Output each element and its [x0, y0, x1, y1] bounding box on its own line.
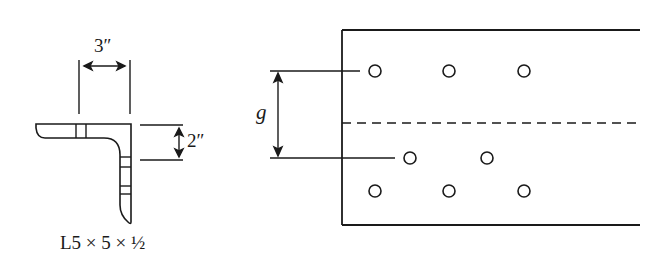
plate-view: [270, 30, 640, 225]
angle-section: [36, 60, 183, 224]
depth-dimension-label: 2″: [187, 130, 204, 152]
bolt-hole: [404, 152, 416, 164]
bolt-hole: [481, 152, 493, 164]
width-dimension-label: 3″: [94, 35, 111, 57]
bolt-hole: [443, 65, 455, 77]
arrow-down-icon: [274, 147, 282, 156]
angle-outline: [36, 124, 131, 224]
gage-label: g: [256, 100, 267, 125]
arrow-up-icon: [274, 73, 282, 82]
bolt-hole: [518, 65, 530, 77]
bolt-hole: [369, 185, 381, 197]
bolt-hole: [443, 185, 455, 197]
section-label: L5 × 5 × ½: [60, 232, 145, 254]
bolt-hole: [518, 185, 530, 197]
bolt-hole: [369, 65, 381, 77]
